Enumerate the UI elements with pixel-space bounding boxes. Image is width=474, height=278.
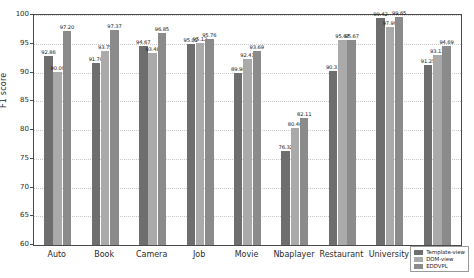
- bar: [291, 128, 300, 245]
- legend-label: Template-view: [426, 249, 465, 255]
- bars-layer: 92.8690.0997.2091.7093.7597.3794.6793.48…: [34, 15, 461, 245]
- bar: [110, 30, 119, 245]
- x-tick-label: Book: [94, 250, 114, 259]
- bar: [139, 46, 148, 245]
- legend-item[interactable]: Template-view: [414, 249, 465, 255]
- bar: [300, 118, 309, 245]
- x-tick-label: Nbaplayer: [273, 250, 314, 259]
- bar: [347, 40, 356, 245]
- bar: [253, 51, 262, 245]
- legend-label: EDDVPL: [426, 263, 448, 269]
- bar-value-label: 99.65: [390, 10, 409, 16]
- bar-value-label: 94.69: [437, 39, 456, 45]
- bar: [158, 33, 167, 245]
- y-tick-label: 65: [7, 211, 29, 219]
- bar-chart: F1 score 92.8690.0997.2091.7093.7597.379…: [0, 0, 474, 278]
- bar-group: 91.7093.7597.37: [92, 15, 119, 245]
- y-tick-label: 100: [7, 10, 29, 18]
- y-tick-mark: [30, 14, 33, 15]
- bar-value-label: 93.69: [248, 44, 267, 50]
- y-tick-label: 75: [7, 154, 29, 162]
- plot-area: 92.8690.0997.2091.7093.7597.3794.6793.48…: [33, 14, 462, 246]
- bar: [433, 55, 442, 245]
- bar-group: 94.6793.4896.85: [139, 15, 166, 245]
- bar: [101, 51, 110, 245]
- bar: [395, 17, 404, 245]
- bar-group: 92.8690.0997.20: [44, 15, 71, 245]
- y-tick-label: 60: [7, 240, 29, 248]
- bar-group: 99.4297.9999.65: [376, 15, 403, 245]
- bar: [148, 53, 157, 246]
- bar: [196, 43, 205, 245]
- bar-value-label: 94.67: [134, 39, 153, 45]
- bar: [187, 44, 196, 245]
- bar: [281, 151, 290, 245]
- bar: [63, 31, 72, 245]
- bar-value-label: 99.42: [371, 11, 390, 17]
- legend-swatch: [414, 264, 423, 269]
- bar-group: 76.3280.4082.11: [281, 15, 308, 245]
- x-tick-label: Camera: [136, 250, 167, 259]
- bar-group: 89.9892.4193.69: [234, 15, 261, 245]
- bar-value-label: 82.11: [295, 111, 314, 117]
- bar: [53, 72, 62, 245]
- y-tick-label: 85: [7, 96, 29, 104]
- bar: [329, 71, 338, 245]
- bar: [376, 18, 385, 245]
- bar-value-label: 95.67: [342, 33, 361, 39]
- x-tick-label: University: [369, 250, 409, 259]
- y-tick-label: 80: [7, 125, 29, 133]
- y-tick-mark: [30, 215, 33, 216]
- legend-swatch: [414, 257, 423, 262]
- bar: [386, 27, 395, 245]
- x-tick-label: Movie: [235, 250, 259, 259]
- y-tick-label: 95: [7, 39, 29, 47]
- x-tick-label: Restaurant: [319, 250, 363, 259]
- bar-group: 91.2593.1394.69: [424, 15, 451, 245]
- legend-item[interactable]: DOM-view: [414, 256, 465, 262]
- y-tick-mark: [30, 158, 33, 159]
- bar: [92, 63, 101, 245]
- y-tick-mark: [30, 100, 33, 101]
- bar: [234, 73, 243, 245]
- bar: [442, 46, 451, 245]
- y-tick-mark: [30, 72, 33, 73]
- bar: [44, 56, 53, 245]
- bar: [424, 65, 433, 245]
- y-tick-mark: [30, 187, 33, 188]
- y-tick-label: 70: [7, 183, 29, 191]
- legend-item[interactable]: EDDVPL: [414, 263, 465, 269]
- bar: [243, 59, 252, 245]
- bar-value-label: 97.20: [58, 24, 77, 30]
- bar-value-label: 97.37: [105, 23, 124, 29]
- bar: [205, 39, 214, 245]
- y-tick-label: 90: [7, 68, 29, 76]
- bar: [338, 40, 347, 245]
- y-tick-mark: [30, 129, 33, 130]
- legend-label: DOM-view: [426, 256, 453, 262]
- bar-group: 95.0295.1295.76: [187, 15, 214, 245]
- x-tick-label: Auto: [47, 250, 66, 259]
- bar-value-label: 95.76: [200, 32, 219, 38]
- y-tick-mark: [30, 244, 33, 245]
- x-tick-label: Job: [193, 250, 205, 259]
- bar-value-label: 96.85: [153, 26, 172, 32]
- legend: Template-viewDOM-viewEDDVPL: [410, 246, 469, 272]
- y-tick-mark: [30, 43, 33, 44]
- bar-group: 90.3195.6795.67: [329, 15, 356, 245]
- legend-swatch: [414, 250, 423, 255]
- bar-value-label: 92.86: [39, 49, 58, 55]
